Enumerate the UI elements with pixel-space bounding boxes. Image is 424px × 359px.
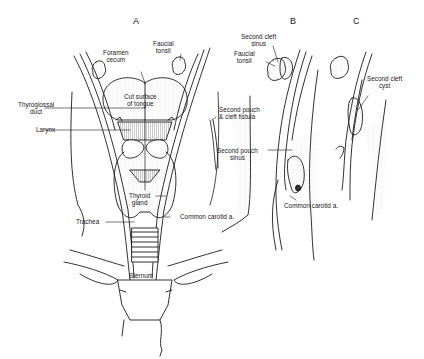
label-foramen-cecum: Foramen cecum [103,49,129,63]
label-larynx: Larynx [36,126,55,133]
label-faucial-tonsil-a: Faucial tonsil [153,40,174,54]
anatomy-line-drawing [0,0,424,359]
label-second-pouch-sinus: Second pouch sinus [217,147,258,161]
label-thyroid-gland: Thyroid gland [129,192,150,206]
label-thyroglossal-duct: Thyroglossal duct [18,101,54,115]
label-second-pouch-cleft-fistula: Second pouch & cleft fistula [219,106,260,120]
label-trachea: Trachea [76,218,99,225]
panel-label-a: A [133,16,139,26]
panel-b-drawing [267,50,318,260]
anatomy-figure: A B C Foramen cecum Faucial tonsil Cut s… [0,0,424,359]
panel-label-c: C [353,16,360,26]
label-common-carotid-a: Common carotid a. [180,213,234,220]
label-common-carotid-b: Common carotid a. [284,202,338,209]
label-sternum: Sternum [129,272,153,279]
panel-label-b: B [290,16,296,26]
label-faucial-tonsil-b: Faucial tonsil [234,50,255,64]
label-cut-surface-tongue: Cut surface of tongue [124,93,157,107]
label-second-cleft-cyst: Second cleft cyst [367,75,402,89]
panel-a-drawing [64,48,251,356]
label-second-cleft-sinus: Second cleft sinus [241,33,276,47]
